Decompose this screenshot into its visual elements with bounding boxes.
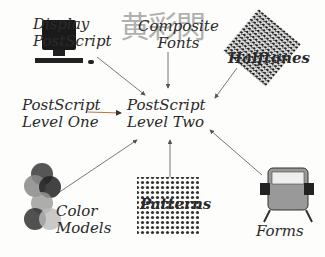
node-label: Level One — [22, 114, 101, 131]
node-label: Color — [56, 203, 111, 220]
node-label: Composite — [138, 18, 219, 35]
node-patterns: Patterns — [140, 196, 211, 213]
node-label: PostScript — [33, 33, 112, 50]
center-postscript-level-two: PostScript Level Two — [127, 97, 206, 131]
node-label: Forms — [256, 223, 304, 240]
node-label: Halftones — [228, 50, 310, 67]
node-display-postscript: Display PostScript — [33, 16, 112, 50]
node-label: PostScript — [22, 97, 101, 114]
rolodex-icon — [260, 168, 314, 222]
node-composite-fonts: Composite Fonts — [138, 18, 219, 52]
node-label: Models — [56, 220, 111, 237]
node-label: Fonts — [138, 35, 219, 52]
center-label: PostScript — [127, 97, 206, 114]
node-label: Display — [33, 16, 112, 33]
center-label: Level Two — [127, 114, 206, 131]
halftone-texture-icon — [223, 9, 300, 86]
node-color-models: Color Models — [56, 203, 111, 237]
node-forms: Forms — [256, 223, 304, 240]
node-label: Patterns — [140, 196, 211, 213]
node-postscript-level-one: PostScript Level One — [22, 97, 101, 131]
node-halftones: Halftones — [228, 50, 310, 67]
